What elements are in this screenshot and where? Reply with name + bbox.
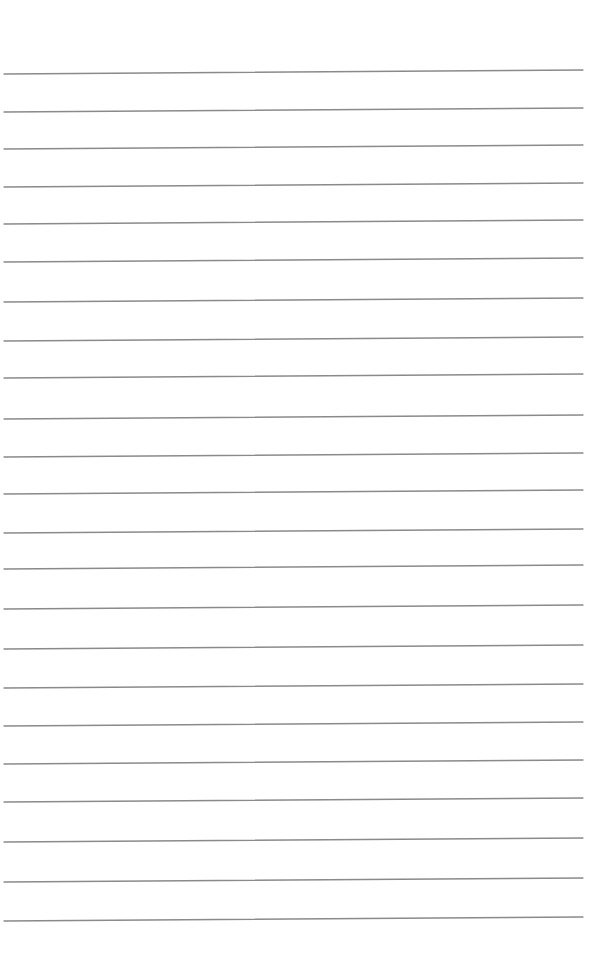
ruled-line: [4, 374, 583, 378]
ruled-line: [4, 415, 583, 419]
ruled-line: [4, 337, 583, 341]
ruled-line: [4, 529, 583, 533]
ruled-line: [4, 490, 583, 494]
ruled-line: [4, 798, 583, 802]
ruled-line: [4, 70, 583, 74]
ruled-lines: [0, 0, 610, 959]
ruled-line: [4, 722, 583, 726]
ruled-line: [4, 453, 583, 457]
ruled-line: [4, 878, 583, 882]
ruled-line: [4, 183, 583, 187]
ruled-line: [4, 838, 583, 842]
ruled-line: [4, 605, 583, 609]
ruled-line: [4, 220, 583, 224]
ruled-line: [4, 684, 583, 688]
ruled-line: [4, 108, 583, 112]
ruled-line: [4, 645, 583, 649]
ruled-line: [4, 565, 583, 569]
lined-paper-page: [0, 0, 610, 959]
ruled-line: [4, 298, 583, 302]
ruled-line: [4, 145, 583, 149]
ruled-line: [4, 258, 583, 262]
ruled-line: [4, 760, 583, 764]
ruled-line: [4, 917, 583, 921]
